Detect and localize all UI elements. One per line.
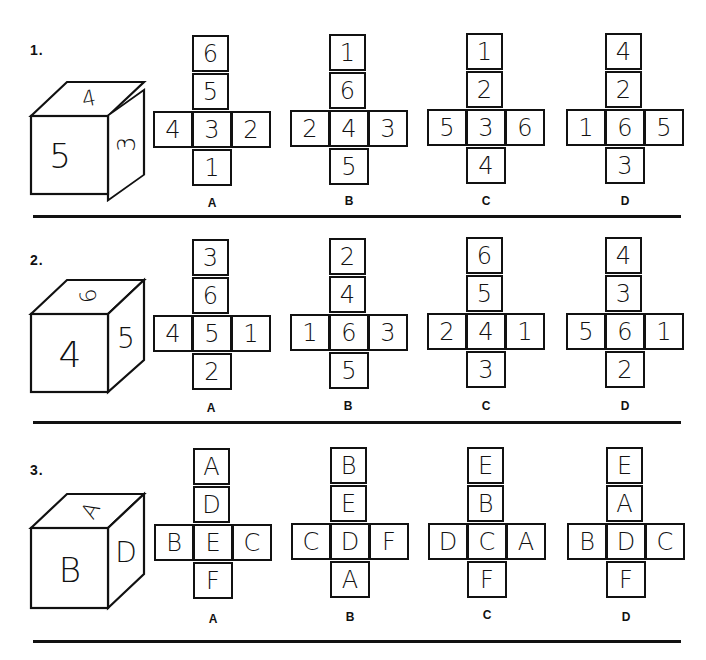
cube-icon: 4 6 5 bbox=[26, 270, 156, 400]
net-cell-center: 3 bbox=[466, 109, 506, 146]
net-cell-left: 5 bbox=[566, 313, 606, 350]
net-cell-right: 3 bbox=[368, 314, 408, 351]
net-cell-upper: 4 bbox=[329, 276, 366, 313]
net-cell-bottom: 5 bbox=[329, 352, 369, 389]
option-label: C bbox=[466, 399, 506, 413]
net-cell-center: 6 bbox=[329, 314, 369, 351]
net-cell-upper: 5 bbox=[466, 275, 503, 312]
net-cell-center: C bbox=[467, 523, 507, 560]
cube-right-face: 5 bbox=[117, 322, 135, 355]
net-cell-top: 1 bbox=[466, 33, 503, 70]
net-cell-left: D bbox=[428, 523, 468, 560]
option-label: A bbox=[193, 612, 233, 626]
cube-right-face: D bbox=[115, 536, 137, 569]
net-cell-center: D bbox=[606, 523, 646, 560]
net-cell-left: 1 bbox=[566, 109, 606, 146]
option-net-q1-a[interactable]: 6 5 4 3 2 1 bbox=[153, 35, 273, 190]
net-cell-bottom: F bbox=[193, 562, 233, 599]
option-net-q3-a[interactable]: A D B E C F bbox=[154, 448, 274, 603]
net-cell-center: 6 bbox=[605, 313, 645, 350]
option-label: B bbox=[329, 194, 369, 208]
option-net-q3-d[interactable]: E A B D C F bbox=[567, 447, 687, 602]
option-net-q1-b[interactable]: 1 6 2 4 3 5 bbox=[290, 34, 410, 189]
net-cell-center: D bbox=[330, 523, 370, 560]
net-cell-bottom: F bbox=[467, 561, 507, 598]
net-cell-bottom: A bbox=[330, 561, 370, 598]
net-cell-top: 6 bbox=[466, 237, 503, 274]
cube-icon: 5 4 3 bbox=[26, 72, 156, 202]
option-net-q2-d[interactable]: 4 3 5 6 1 2 bbox=[566, 237, 686, 392]
net-cell-top: 4 bbox=[605, 33, 642, 70]
question-number: 2. bbox=[30, 252, 44, 268]
cube-right-face: 3 bbox=[113, 136, 141, 151]
net-cell-upper: 5 bbox=[192, 73, 229, 110]
net-cell-upper: B bbox=[467, 485, 504, 522]
net-cell-bottom: 2 bbox=[605, 351, 645, 388]
option-label: A bbox=[192, 196, 232, 210]
net-cell-left: C bbox=[291, 523, 331, 560]
option-net-q1-c[interactable]: 1 2 5 3 6 4 bbox=[427, 33, 547, 188]
net-cell-upper: A bbox=[606, 485, 643, 522]
divider bbox=[33, 215, 681, 218]
option-label: D bbox=[606, 610, 646, 624]
net-cell-upper: 2 bbox=[466, 71, 503, 108]
net-cell-top: E bbox=[606, 447, 643, 484]
net-cell-top: 2 bbox=[329, 238, 366, 275]
net-cell-left: 1 bbox=[290, 314, 330, 351]
cube-icon: B A D bbox=[26, 484, 156, 614]
net-cell-bottom: F bbox=[606, 561, 646, 598]
net-cell-left: B bbox=[154, 524, 194, 561]
net-cell-right: 1 bbox=[644, 313, 684, 350]
net-cell-top: E bbox=[467, 447, 504, 484]
option-label: D bbox=[605, 399, 645, 413]
net-cell-left: 4 bbox=[153, 315, 193, 352]
net-cell-center: 4 bbox=[329, 110, 369, 147]
net-cell-bottom: 2 bbox=[192, 353, 232, 390]
net-cell-left: B bbox=[567, 523, 607, 560]
net-cell-right: 1 bbox=[231, 315, 271, 352]
net-cell-bottom: 5 bbox=[329, 148, 369, 185]
net-cell-center: 4 bbox=[466, 313, 506, 350]
cube-illustration: 4 6 5 bbox=[26, 270, 156, 400]
net-cell-left: 5 bbox=[427, 109, 467, 146]
net-cell-upper: D bbox=[193, 486, 230, 523]
net-cell-right: 6 bbox=[505, 109, 545, 146]
net-cell-upper: 6 bbox=[192, 277, 229, 314]
net-cell-right: A bbox=[506, 523, 546, 560]
net-cell-right: F bbox=[369, 523, 409, 560]
net-cell-left: 2 bbox=[290, 110, 330, 147]
net-cell-right: 2 bbox=[231, 111, 271, 148]
cube-illustration: B A D bbox=[26, 484, 156, 614]
option-label: C bbox=[466, 194, 506, 208]
option-label: B bbox=[330, 610, 370, 624]
net-cell-upper: E bbox=[330, 485, 367, 522]
option-label: C bbox=[467, 608, 507, 622]
net-cell-right: C bbox=[232, 524, 272, 561]
net-cell-top: 3 bbox=[192, 239, 229, 276]
option-net-q3-c[interactable]: E B D C A F bbox=[428, 447, 548, 602]
option-net-q1-d[interactable]: 4 2 1 6 5 3 bbox=[566, 33, 686, 188]
net-cell-bottom: 3 bbox=[466, 351, 506, 388]
option-net-q3-b[interactable]: B E C D F A bbox=[291, 447, 411, 602]
option-label: B bbox=[328, 399, 368, 413]
cube-illustration: 5 4 3 bbox=[26, 72, 156, 202]
net-cell-center: 5 bbox=[192, 315, 232, 352]
net-cell-right: 1 bbox=[505, 313, 545, 350]
option-label: D bbox=[605, 194, 645, 208]
option-net-q2-a[interactable]: 3 6 4 5 1 2 bbox=[153, 239, 273, 394]
net-cell-upper: 3 bbox=[605, 275, 642, 312]
net-cell-top: 6 bbox=[192, 35, 229, 72]
cube-front-face: B bbox=[59, 550, 81, 590]
net-cell-top: 1 bbox=[329, 34, 366, 71]
net-cell-right: C bbox=[645, 523, 685, 560]
net-cell-bottom: 1 bbox=[192, 149, 232, 186]
cube-front-face: 4 bbox=[59, 334, 82, 375]
option-net-q2-c[interactable]: 6 5 2 4 1 3 bbox=[427, 237, 547, 392]
option-net-q2-b[interactable]: 2 4 1 6 3 5 bbox=[290, 238, 410, 393]
question-number: 3. bbox=[30, 462, 44, 478]
question-number: 1. bbox=[30, 42, 44, 58]
net-cell-center: E bbox=[193, 524, 233, 561]
option-label: A bbox=[191, 401, 231, 415]
net-cell-top: B bbox=[330, 447, 367, 484]
net-cell-right: 5 bbox=[644, 109, 684, 146]
